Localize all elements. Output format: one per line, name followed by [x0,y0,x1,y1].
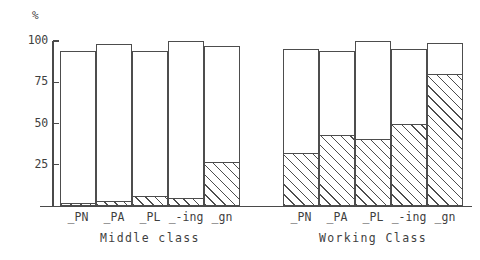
bar-chart: % 100755025 _PN_PA_PL_-ing_gnMiddle clas… [0,0,480,260]
bar-hatched-segment [132,196,168,206]
bar-hatched-segment [355,139,391,207]
bar [355,41,391,206]
x-axis-category-label: _gn [423,211,467,224]
bar [168,41,204,206]
bar-hatched-segment [427,74,463,206]
bar [319,51,355,206]
bar [391,49,427,206]
bar-hatched-segment [60,203,96,206]
bar-hatched-segment [283,153,319,206]
bar [60,51,96,206]
plot-area: _PN_PA_PL_-ing_gnMiddle class_PN_PA_PL_-… [0,0,480,260]
group-title: Middle class [60,232,240,245]
bar-hatched-segment [204,162,240,207]
bar [132,51,168,206]
bar-group-middle-class: _PN_PA_PL_-ing_gnMiddle class [60,0,240,260]
bar [427,43,463,206]
bar [96,44,132,206]
bar-hatched-segment [168,198,204,206]
bar-group-working-class: _PN_PA_PL_-ing_gnWorking Class [283,0,463,260]
bar-hatched-segment [96,201,132,206]
bar-hatched-segment [319,135,355,206]
bar-hatched-segment [391,124,427,207]
bar [204,46,240,206]
bar [283,49,319,206]
x-axis-category-label: _gn [200,211,244,224]
group-title: Working Class [283,232,463,245]
